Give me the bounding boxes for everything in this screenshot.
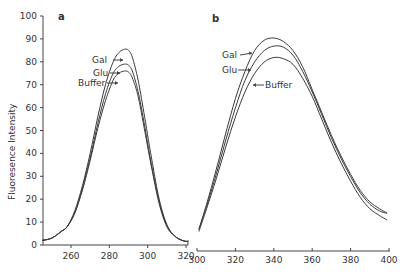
x-tick-label: 320 bbox=[227, 255, 244, 265]
y-axis-label: Fluoresence Intensity bbox=[7, 103, 17, 200]
y-tick-label: 10 bbox=[26, 217, 38, 227]
y-tick-label: 70 bbox=[26, 80, 38, 90]
x-tick-label: 260 bbox=[62, 251, 79, 261]
chart-canvas: 0102030405060708090100 260280300320 a Fl… bbox=[0, 0, 406, 275]
annotation-buffer-b: Buffer bbox=[265, 80, 293, 90]
curve-glu-a bbox=[42, 64, 188, 242]
x-ticks-a: 260280300320 bbox=[62, 240, 194, 261]
y-tick-label: 80 bbox=[26, 57, 38, 67]
y-tick-label: 30 bbox=[26, 171, 38, 181]
x-tick-label: 300 bbox=[139, 251, 156, 261]
y-tick-label: 50 bbox=[26, 126, 38, 136]
panel-label-b: b bbox=[212, 13, 219, 24]
y-tick-label: 0 bbox=[31, 240, 37, 250]
y-ticks: 0102030405060708090100 bbox=[20, 11, 43, 250]
annotation-glu-a: Glu bbox=[93, 68, 108, 78]
y-tick-label: 40 bbox=[26, 148, 38, 158]
curves-a bbox=[42, 49, 188, 242]
y-tick-label: 20 bbox=[26, 194, 38, 204]
curve-buffer-b bbox=[199, 57, 387, 231]
annotation-glu-b: Glu bbox=[222, 65, 237, 75]
arrow-head-icon bbox=[117, 71, 120, 75]
y-tick-label: 60 bbox=[26, 103, 38, 113]
curve-gal-a bbox=[42, 49, 188, 242]
x-tick-label: 300 bbox=[188, 255, 205, 265]
x-tick-label: 380 bbox=[342, 255, 359, 265]
curve-buffer-a bbox=[42, 71, 188, 242]
panel-label-a: a bbox=[58, 11, 65, 22]
arrow-head-icon bbox=[120, 58, 123, 62]
arrow-head-icon bbox=[115, 81, 118, 85]
panel-b: 300320340360380400 b Gal Glu Buffer bbox=[188, 13, 397, 265]
y-tick-label: 90 bbox=[26, 34, 38, 44]
x-tick-label: 360 bbox=[304, 255, 321, 265]
arrow-head-icon bbox=[253, 83, 256, 87]
annotation-buffer-a: Buffer bbox=[78, 78, 106, 88]
annotation-gal-b: Gal bbox=[222, 50, 237, 60]
x-tick-label: 400 bbox=[380, 255, 397, 265]
y-tick-label: 100 bbox=[20, 11, 37, 21]
panel-a: 0102030405060708090100 260280300320 a Fl… bbox=[7, 11, 195, 261]
annotation-gal-a: Gal bbox=[92, 55, 107, 65]
fluorescence-figure: 0102030405060708090100 260280300320 a Fl… bbox=[0, 0, 406, 275]
arrow-head-icon bbox=[249, 52, 252, 56]
x-tick-label: 340 bbox=[265, 255, 282, 265]
x-tick-label: 280 bbox=[101, 251, 118, 261]
